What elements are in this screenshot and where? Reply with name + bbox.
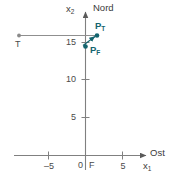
coordinate-plot: x2 Nord 15 10 5 –5 5 0 F T PT PF Ost x1 — [0, 0, 174, 183]
x-axis-symbol: x1 — [143, 161, 151, 171]
point-label-F: F — [89, 161, 95, 170]
origin-label: 0 — [74, 161, 83, 170]
nord-label: Nord — [93, 3, 114, 13]
point-label-PF-subscript: F — [96, 49, 100, 56]
plot-svg — [0, 0, 174, 183]
y-tick-label-5: 5 — [54, 113, 76, 122]
ost-label: Ost — [150, 148, 165, 158]
y-axis-symbol: x2 — [66, 4, 74, 14]
y-tick-label-15: 15 — [54, 38, 76, 47]
point-PF — [83, 44, 88, 49]
x-tick-label-5: 5 — [117, 162, 129, 171]
point-label-PT-subscript: T — [101, 25, 105, 32]
point-PT — [95, 33, 100, 38]
y-tick-label-10: 10 — [54, 75, 76, 84]
y-axis-symbol-subscript: 2 — [71, 8, 75, 15]
point-T — [17, 34, 21, 38]
x-axis-symbol-subscript: 1 — [148, 165, 152, 172]
point-label-PT: PT — [95, 21, 105, 31]
x-axis — [14, 152, 146, 160]
point-label-PF: PF — [90, 45, 100, 55]
x-tick-label-minus5: –5 — [40, 162, 58, 171]
point-label-T: T — [15, 40, 21, 49]
